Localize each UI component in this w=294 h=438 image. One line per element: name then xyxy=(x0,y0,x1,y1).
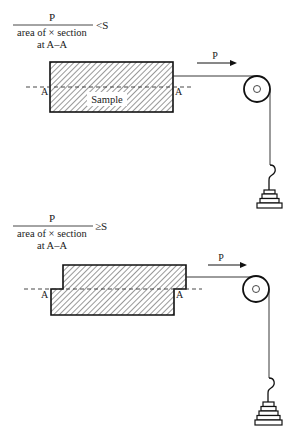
force-label: P xyxy=(218,252,224,263)
formula-denominator: area of × section xyxy=(17,27,88,38)
formula-top: P area of × section at A–A <S xyxy=(13,11,108,50)
formula-denominator: area of × section xyxy=(17,228,88,239)
formula-numerator: P xyxy=(49,212,55,224)
hook-icon xyxy=(268,378,274,402)
formula-subscript: at A–A xyxy=(37,240,67,251)
pulley-axle-icon xyxy=(254,86,261,93)
bottom-panel: P area of × section at A–A ≥S A A P xyxy=(13,212,282,425)
formula-numerator: P xyxy=(49,11,55,23)
hanging-weight-icon xyxy=(257,165,282,208)
formula-subscript: at A–A xyxy=(37,39,67,50)
hanging-weight-icon xyxy=(255,378,282,425)
formula-relation: ≥S xyxy=(95,220,107,232)
force-label: P xyxy=(212,50,218,61)
sheared-sample-block xyxy=(51,265,186,315)
force-arrow-icon xyxy=(230,60,237,66)
pulley-axle-icon xyxy=(253,286,260,293)
section-label-right: A xyxy=(175,86,183,97)
sample-label: Sample xyxy=(91,94,123,105)
formula-bottom: P area of × section at A–A ≥S xyxy=(13,212,107,251)
shear-test-diagram: P area of × section at A–A <S Sample A A… xyxy=(0,0,294,438)
section-label-left: A xyxy=(41,289,49,300)
top-panel: P area of × section at A–A <S Sample A A… xyxy=(13,11,282,208)
hook-icon xyxy=(269,165,275,190)
force-arrow-icon xyxy=(240,262,247,268)
formula-relation: <S xyxy=(96,19,108,31)
section-label-left: A xyxy=(41,86,49,97)
section-label-right: A xyxy=(176,289,184,300)
